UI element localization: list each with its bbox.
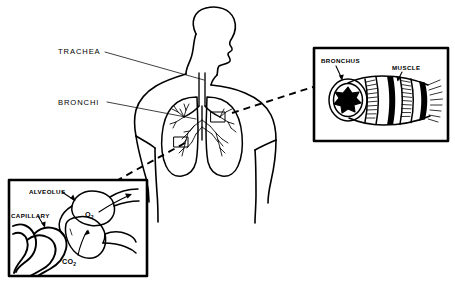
figure-canvas: TRACHEA BRONCHI (0, 0, 455, 281)
respiratory-system-figure: TRACHEA BRONCHI (0, 0, 455, 281)
label-alveolus: ALVEOLUS (29, 188, 65, 195)
bronchus-inset: BRONCHUS MUSCLE (314, 48, 448, 141)
co2-subscript: 2 (73, 261, 76, 267)
label-muscle: MUSCLE (392, 64, 421, 71)
label-capillary: CAPILLARY (11, 212, 50, 219)
label-trachea: TRACHEA (58, 47, 101, 56)
oxygen-subscript: 2 (91, 214, 94, 220)
label-bronchus: BRONCHUS (321, 57, 360, 64)
alveolus-inset: ALVEOLUS CAPILLARY O2 CO2 (9, 180, 147, 276)
co2-symbol: CO (62, 257, 73, 266)
label-bronchi: BRONCHI (58, 98, 99, 107)
